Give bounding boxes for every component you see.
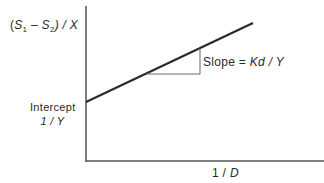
y-axis-label: (S1 – S2) / X <box>10 19 78 36</box>
intercept-value: 1 / Y <box>30 115 75 127</box>
intercept-annotation: Intercept 1 / Y <box>30 101 75 127</box>
intercept-label: Intercept <box>30 101 75 113</box>
x-axis-label: 1 / D <box>212 167 239 179</box>
slope-annotation: Slope = Kd / Y <box>203 56 284 68</box>
